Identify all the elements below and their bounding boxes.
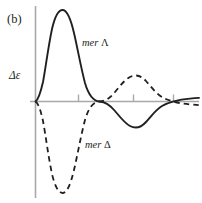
curve-label-mer-lambda-prefix: mer (82, 37, 101, 48)
curve-mer-lambda (36, 10, 200, 128)
curve-label-mer-lambda-symbol: Λ (101, 37, 109, 48)
cd-spectrum-plot (0, 0, 202, 203)
curve-label-mer-lambda: mer Λ (82, 38, 109, 49)
y-axis-label: Δε (9, 70, 20, 82)
curve-label-mer-delta: mer Δ (85, 140, 111, 151)
curve-label-mer-delta-symbol: Δ (104, 139, 111, 150)
curve-mer-delta (36, 75, 200, 193)
figure-panel-b: (b) Δε mer Λ mer Δ (0, 0, 202, 203)
curve-label-mer-delta-prefix: mer (85, 139, 104, 150)
panel-label: (b) (7, 13, 22, 26)
